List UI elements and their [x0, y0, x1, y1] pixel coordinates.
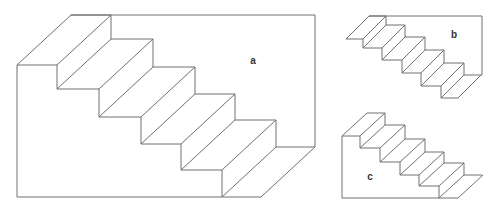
staircase-figure-b	[346, 16, 482, 98]
figure-label-b: b	[451, 30, 457, 40]
staircase-illusion-diagram	[0, 0, 498, 208]
staircase-figure-c	[342, 113, 483, 198]
staircase-figure-a	[17, 15, 315, 197]
figure-label-a: a	[250, 56, 256, 66]
figure-label-c: c	[367, 172, 373, 182]
